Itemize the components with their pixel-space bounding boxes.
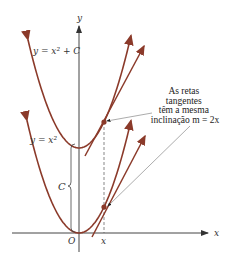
tangent-point-bottom [101,204,106,209]
x-tick-label: x [101,236,106,246]
equation-label-shifted: y = x² + C [32,46,80,56]
equation-label-base: y = x² [29,135,57,145]
origin-label: O [68,236,76,246]
tangent-point-top [101,119,106,124]
pointer-line-top [107,113,152,121]
tangent-line-bottom [92,136,145,237]
x-axis-label: x [214,228,219,238]
annotation-text: As retas tangentes têm a mesma inclinaçã… [151,86,220,125]
offset-label: C [58,181,66,192]
diagram-canvas: x y O x y = x² + C y = x² C As retas tan… [0,0,236,271]
pointer-line-bottom [108,126,190,206]
tangent-line-top [85,46,144,156]
offset-brace [68,144,75,232]
y-axis-label: y [76,13,83,23]
